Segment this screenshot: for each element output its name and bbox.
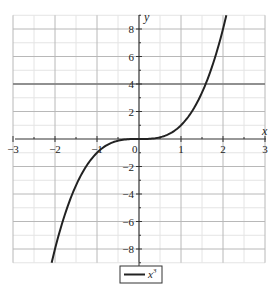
x-tick-label: 1: [178, 143, 184, 155]
y-tick-label: 6: [129, 51, 135, 63]
y-tick-label: 8: [129, 23, 135, 35]
y-tick-label: −4: [122, 188, 134, 200]
legend: x3: [120, 262, 162, 283]
y-tick-label: −2: [122, 161, 134, 173]
origin-label: 0: [132, 143, 138, 155]
y-tick-label: −6: [122, 216, 134, 228]
y-tick-label: −8: [122, 243, 134, 255]
x-axis-label: x: [261, 124, 268, 138]
y-tick-label: 4: [129, 78, 135, 90]
cubic-function-chart: −3−2−1123−8−6−4−22468 x y 0 x3: [0, 0, 278, 291]
x-tick-label: −3: [7, 143, 19, 155]
y-tick-label: 2: [129, 106, 135, 118]
x-tick-label: −2: [49, 143, 61, 155]
x-tick-label: 3: [262, 143, 268, 155]
x-tick-label: 2: [220, 143, 226, 155]
y-axis-label: y: [143, 10, 150, 24]
